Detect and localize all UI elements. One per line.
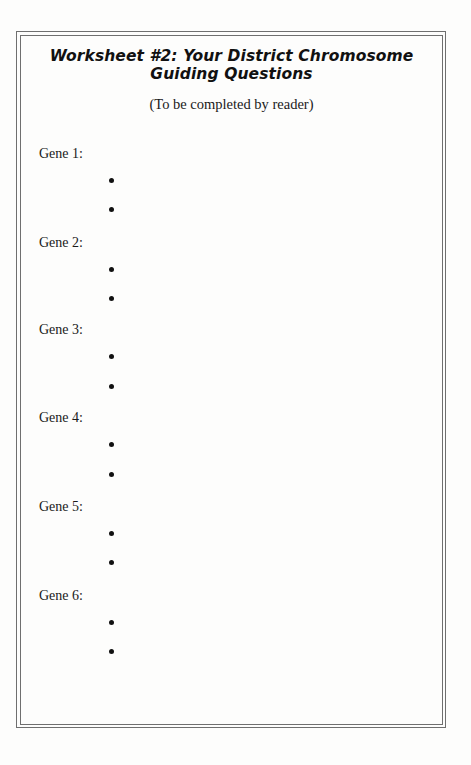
gene-1-label: Gene 1:	[39, 146, 83, 162]
gene-3-bullet-1	[109, 354, 114, 359]
gene-6-label: Gene 6:	[39, 588, 83, 604]
worksheet-subtitle: (To be completed by reader)	[20, 96, 443, 113]
gene-1-bullet-1	[109, 178, 114, 183]
gene-1-bullet-2	[109, 207, 114, 212]
gene-2-label: Gene 2:	[39, 235, 83, 251]
gene-4-bullet-1	[109, 442, 114, 447]
gene-4-bullet-2	[109, 472, 114, 477]
title-line-1: Worksheet #2: Your District Chromosome	[20, 47, 443, 65]
worksheet-title: Worksheet #2: Your District Chromosome G…	[20, 47, 443, 83]
gene-2-bullet-1	[109, 267, 114, 272]
gene-3-bullet-2	[109, 384, 114, 389]
gene-4-label: Gene 4:	[39, 410, 83, 426]
gene-2-bullet-2	[109, 296, 114, 301]
gene-6-bullet-2	[109, 649, 114, 654]
gene-5-bullet-1	[109, 531, 114, 536]
title-line-2: Guiding Questions	[20, 65, 443, 83]
gene-6-bullet-1	[109, 620, 114, 625]
gene-3-label: Gene 3:	[39, 322, 83, 338]
worksheet-inner-border	[20, 35, 443, 725]
gene-5-label: Gene 5:	[39, 499, 83, 515]
gene-5-bullet-2	[109, 560, 114, 565]
